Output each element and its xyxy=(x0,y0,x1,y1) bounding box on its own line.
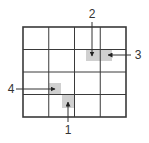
shaded-regions xyxy=(49,50,112,108)
callout-label-4: 4 xyxy=(8,82,15,96)
callout-label-3: 3 xyxy=(135,48,142,62)
grid-diagram: 1234 xyxy=(0,0,149,143)
callout-label-1: 1 xyxy=(65,123,72,137)
callout-label-2: 2 xyxy=(89,7,96,21)
grid xyxy=(23,27,126,117)
